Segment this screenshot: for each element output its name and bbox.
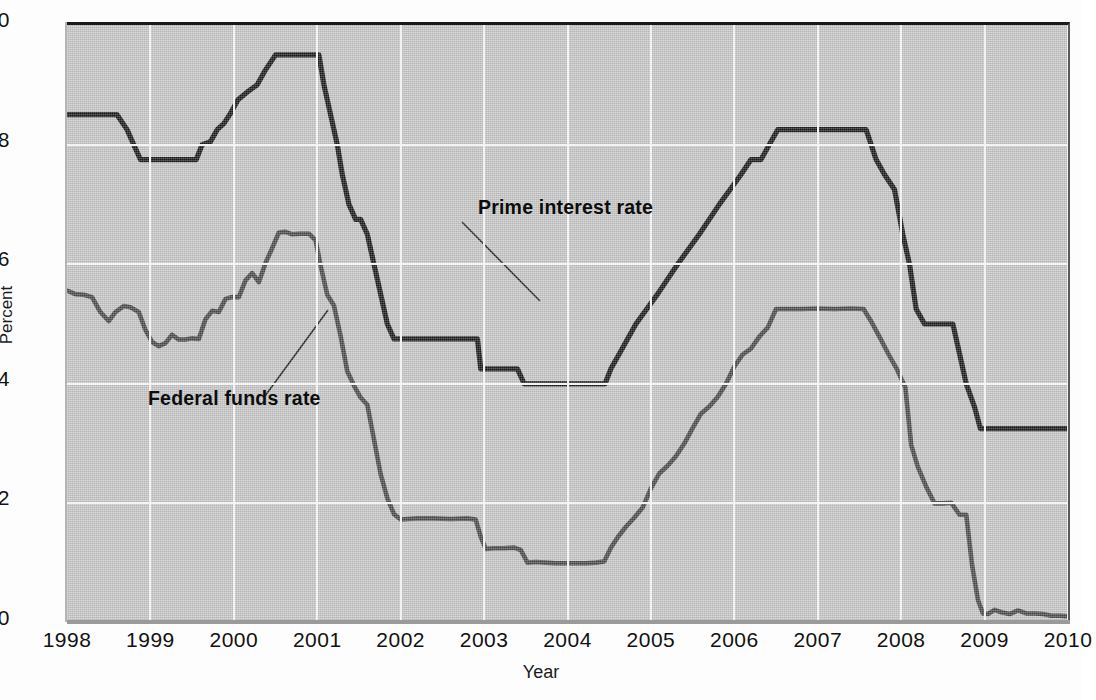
gridline-vertical-2003 (483, 25, 485, 623)
y-axis-tick-2: 2 (0, 486, 10, 510)
x-axis-tick-2010: 2010 (1008, 628, 1096, 652)
leader-line-prime (462, 222, 540, 301)
x-axis-title: Year (0, 662, 1082, 683)
y-axis-title: Percent (0, 286, 17, 345)
y-axis-tick-10: 10 (0, 8, 10, 32)
y-axis-tick-0: 0 (0, 606, 10, 630)
gridline-vertical-2006 (733, 25, 735, 623)
y-axis-tick-8: 8 (0, 128, 10, 152)
gridline-horizontal-6 (67, 263, 1068, 265)
gridline-vertical-2008 (900, 25, 902, 623)
plot-bottom-edge (67, 620, 1070, 624)
gridline-vertical-2005 (650, 25, 652, 623)
gridline-vertical-2000 (233, 25, 235, 623)
annotation-prime-interest-rate: Prime interest rate (478, 196, 653, 219)
gridline-vertical-2004 (567, 25, 569, 623)
gridline-vertical-2002 (400, 25, 402, 623)
y-axis-tick-4: 4 (0, 367, 10, 391)
gridline-horizontal-4 (67, 383, 1068, 385)
gridline-vertical-2010 (1067, 25, 1069, 623)
gridline-vertical-2009 (984, 25, 986, 623)
gridline-vertical-1999 (149, 25, 151, 623)
gridline-horizontal-8 (67, 144, 1068, 146)
gridline-vertical-2001 (316, 25, 318, 623)
gridline-horizontal-2 (67, 502, 1068, 504)
gridline-vertical-2007 (817, 25, 819, 623)
y-axis-tick-6: 6 (0, 247, 10, 271)
plot-area (67, 22, 1070, 623)
annotation-federal-funds-rate: Federal funds rate (148, 387, 321, 410)
